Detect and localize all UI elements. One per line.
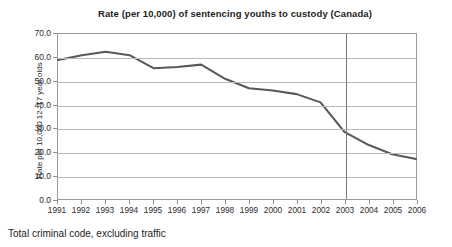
x-tick-mark <box>273 200 274 204</box>
x-tick-mark <box>201 200 202 204</box>
gridline <box>58 82 416 83</box>
y-tick-mark <box>53 33 57 34</box>
x-tick-mark <box>369 200 370 204</box>
x-tick-mark <box>153 200 154 204</box>
x-tick-mark <box>105 200 106 204</box>
y-tick-label: 60.0 <box>34 52 51 62</box>
page-title: Rate (per 10,000) of sentencing youths t… <box>40 8 430 19</box>
x-axis: 1991199219931994199519961997199819992000… <box>0 205 452 219</box>
gridline <box>58 153 416 154</box>
y-tick-label: 50.0 <box>34 76 51 86</box>
x-tick-mark <box>225 200 226 204</box>
y-tick-label: 30.0 <box>34 123 51 133</box>
x-tick-mark <box>321 200 322 204</box>
chart-screenshot: Rate (per 10,000) of sentencing youths t… <box>0 0 452 247</box>
x-tick-mark <box>393 200 394 204</box>
gridline <box>58 106 416 107</box>
plot-area <box>57 33 417 200</box>
x-tick-mark <box>177 200 178 204</box>
x-tick-mark <box>249 200 250 204</box>
y-tick-mark <box>53 152 57 153</box>
x-tick-mark <box>297 200 298 204</box>
x-tick-label: 2006 <box>402 205 432 215</box>
gridline <box>58 177 416 178</box>
x-tick-mark <box>57 200 58 204</box>
y-tick-label: 10.0 <box>34 171 51 181</box>
y-tick-mark <box>53 128 57 129</box>
y-tick-label: 40.0 <box>34 100 51 110</box>
y-tick-mark <box>53 105 57 106</box>
x-tick-mark <box>81 200 82 204</box>
y-tick-mark <box>53 81 57 82</box>
y-tick-label: 70.0 <box>34 28 51 38</box>
reference-line-2003 <box>346 34 347 199</box>
y-tick-label: 20.0 <box>34 147 51 157</box>
y-tick-mark <box>53 57 57 58</box>
x-tick-mark <box>417 200 418 204</box>
gridline <box>58 58 416 59</box>
y-tick-label: 0.0 <box>39 195 51 205</box>
y-tick-mark <box>53 176 57 177</box>
x-tick-mark <box>129 200 130 204</box>
chart-footnote: Total criminal code, excluding traffic <box>8 228 166 239</box>
x-tick-mark <box>345 200 346 204</box>
gridline <box>58 129 416 130</box>
